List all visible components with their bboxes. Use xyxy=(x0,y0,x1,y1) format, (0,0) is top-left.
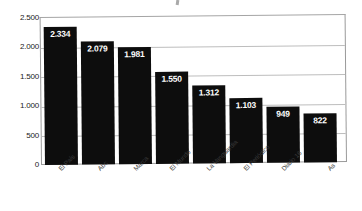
bar-value-label: 2.334 xyxy=(44,28,77,38)
y-tick-label: 1.000 xyxy=(1,101,39,110)
bar-value-label: 1.550 xyxy=(155,74,188,84)
bar-value-label: 1.103 xyxy=(229,100,262,110)
y-tick-label: 0 xyxy=(1,160,39,169)
y-tick-label: 1.500 xyxy=(1,72,39,81)
bar-marca[interactable]: 1.981 xyxy=(118,47,152,165)
clipped-title-mark xyxy=(176,0,180,5)
bar-value-label: 822 xyxy=(304,116,337,126)
bar-el-pais[interactable]: 2.334 xyxy=(44,26,78,164)
y-tick-label: 2.500 xyxy=(1,13,39,22)
bar-value-label: 949 xyxy=(266,108,299,118)
bar-value-label: 1.981 xyxy=(118,49,151,59)
bar-series: 2.334 2.079 1.981 1.550 1.312 1.103 949 … xyxy=(40,14,347,165)
x-axis: El País Abc Marca El Mundo La Vanguardia… xyxy=(41,167,347,211)
bar-value-label: 1.312 xyxy=(192,88,225,98)
y-tick-label: 2.000 xyxy=(1,42,39,51)
y-tick-label: 500 xyxy=(1,131,39,140)
bar-as[interactable]: 822 xyxy=(304,114,337,163)
y-axis: 2.500 2.000 1.500 1.000 500 0 xyxy=(0,0,39,211)
bar-value-label: 2.079 xyxy=(81,43,114,53)
bar-abc[interactable]: 2.079 xyxy=(81,41,115,164)
bar-chart: 2.500 2.000 1.500 1.000 500 0 2.334 2.07… xyxy=(0,0,362,211)
x-tick-label-as: As xyxy=(326,162,336,172)
